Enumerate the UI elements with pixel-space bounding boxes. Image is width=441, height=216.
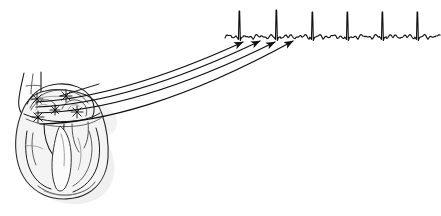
heart-ecg-figure <box>0 0 441 216</box>
ecg-rhythm-strip <box>225 10 440 41</box>
focus-mark <box>71 106 83 118</box>
focus-mark <box>31 93 43 105</box>
figure-root: Heart with ectopic atrial foci and corre… <box>0 0 441 216</box>
ecg-trace <box>225 10 440 41</box>
focus-mark <box>60 90 72 102</box>
